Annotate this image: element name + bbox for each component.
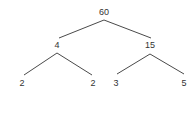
node-60: 60 xyxy=(99,7,109,17)
node-4: 4 xyxy=(54,40,59,50)
edge-4-2-right xyxy=(57,53,92,75)
node-2-right: 2 xyxy=(90,78,95,88)
edge-60-4 xyxy=(59,20,104,38)
nodes: 60 4 15 2 2 3 5 xyxy=(19,7,186,88)
edge-15-3 xyxy=(117,54,150,74)
factor-tree-diagram: 60 4 15 2 2 3 5 xyxy=(0,0,196,125)
edge-60-15 xyxy=(104,20,151,38)
node-15: 15 xyxy=(145,40,155,50)
edge-15-5 xyxy=(150,54,184,74)
node-5: 5 xyxy=(181,78,186,88)
node-3: 3 xyxy=(113,78,118,88)
edges xyxy=(24,20,184,75)
edge-4-2-left xyxy=(24,53,57,75)
node-2-left: 2 xyxy=(19,78,24,88)
